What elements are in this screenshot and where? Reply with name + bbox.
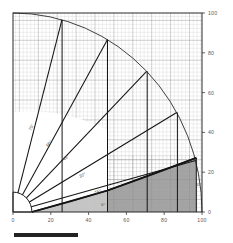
x-tick-label-60: 60 [123,217,129,223]
x-tick-label-20: 20 [48,217,54,223]
chart-figure-root: 75° 60° 45° 30° 15° 0° 0° [0,0,233,243]
y-tick-label-80: 80 [208,50,214,56]
scale-bar [14,233,78,237]
y-tick-label-0: 0 [208,209,211,215]
angle-label-0-right: 0° [197,182,201,187]
angle-label-0: 0° [101,202,105,207]
x-tick-label-0: 0 [11,217,14,223]
x-tick-label-100: 100 [197,217,206,223]
y-tick-label-60: 60 [208,90,214,96]
y-tick-label-40: 40 [208,129,214,135]
polar-nomogram-chart: 75° 60° 45° 30° 15° 0° 0° [0,0,233,243]
y-tick-label-20: 20 [208,169,214,175]
y-tick-label-100: 100 [208,10,217,16]
x-tick-label-40: 40 [86,217,92,223]
x-tick-label-80: 80 [161,217,167,223]
